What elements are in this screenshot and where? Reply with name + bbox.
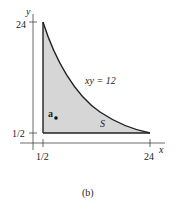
point-a-label: a (48, 108, 53, 119)
region-diagram: y x 24 1/2 1/2 24 xy = 12 S a (b) (0, 0, 177, 205)
y-tick-label-24: 24 (16, 19, 26, 30)
y-axis-label: y (25, 6, 31, 17)
y-tick-label-half: 1/2 (12, 128, 25, 139)
x-tick-label-half: 1/2 (36, 151, 49, 162)
point-a (54, 116, 58, 120)
region-label: S (100, 118, 105, 129)
figure-caption: (b) (82, 187, 94, 199)
x-axis-label: x (158, 144, 164, 155)
curve-label: xy = 12 (84, 75, 116, 86)
x-tick-label-24: 24 (144, 151, 154, 162)
